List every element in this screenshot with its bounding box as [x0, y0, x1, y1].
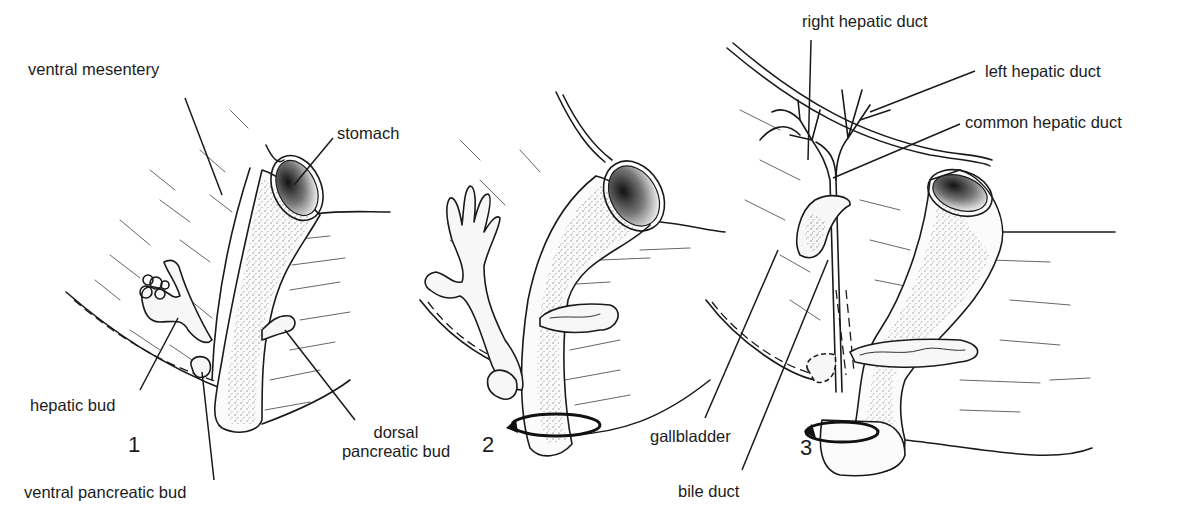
leader-ventral-mesentery [185, 98, 222, 195]
stage-3-drawing [705, 40, 1115, 476]
label-gallbladder: gallbladder [650, 427, 731, 446]
label-stomach: stomach [337, 124, 399, 143]
label-ventral-mesentery: ventral mesentery [28, 60, 159, 79]
label-dorsal-pancreatic-bud: dorsal pancreatic bud [316, 423, 476, 461]
label-dorsal-line-2: pancreatic bud [316, 442, 476, 461]
mesentery-hatching [95, 110, 248, 362]
leader-hepatic-bud [140, 318, 178, 390]
label-ventral-pancreatic-bud: ventral pancreatic bud [24, 483, 186, 502]
stage-2-drawing [420, 92, 725, 456]
label-bile-duct: bile duct [678, 482, 739, 501]
label-common-hepatic-duct: common hepatic duct [965, 113, 1122, 132]
label-left-hepatic-duct: left hepatic duct [985, 62, 1101, 81]
stage-number-3: 3 [800, 435, 812, 461]
embryology-figure: ventral mesentery stomach hepatic bud 1 … [0, 0, 1186, 528]
leader-gallbladder [705, 250, 778, 418]
label-dorsal-line-1: dorsal [316, 423, 476, 442]
leader-left-hepatic-duct [870, 71, 975, 112]
stage-number-1: 1 [128, 432, 140, 458]
label-hepatic-bud: hepatic bud [30, 396, 115, 415]
stage-number-2: 2 [482, 432, 494, 458]
leader-ventral-pancreatic-bud [202, 372, 214, 480]
label-right-hepatic-duct: right hepatic duct [802, 12, 928, 31]
